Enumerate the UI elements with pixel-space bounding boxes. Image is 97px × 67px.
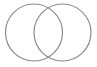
venn-diagram: [0, 0, 97, 67]
